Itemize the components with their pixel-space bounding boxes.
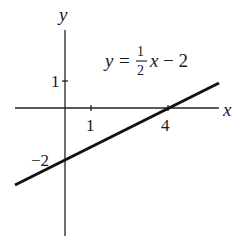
fraction-numerator: 1 bbox=[137, 44, 144, 59]
equation-equals: = bbox=[119, 50, 130, 71]
equation-label: y = 1 2 x − 2 bbox=[103, 44, 188, 78]
y-tick-label-neg2: −2 bbox=[31, 151, 49, 170]
x-axis-label: x bbox=[222, 99, 232, 120]
graph-canvas: y x 1 4 1 −2 y = 1 2 x − 2 bbox=[0, 0, 243, 237]
fraction-denominator: 2 bbox=[137, 63, 144, 78]
x-tick-label-1: 1 bbox=[86, 116, 95, 135]
y-tick-label-1: 1 bbox=[51, 72, 60, 91]
equation-lhs: y bbox=[103, 50, 114, 71]
y-axis-label: y bbox=[57, 4, 68, 25]
x-tick-label-4: 4 bbox=[161, 116, 170, 135]
equation-rest: − 2 bbox=[163, 50, 188, 71]
equation-var: x bbox=[149, 50, 159, 71]
